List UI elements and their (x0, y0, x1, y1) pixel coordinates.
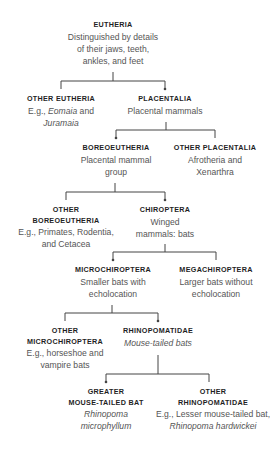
node-title: EUTHERIA (68, 20, 158, 31)
node-description: group (81, 166, 152, 178)
node-description: E.g., Primates, Rodentia, (18, 226, 114, 238)
node-title: PLACENTALIA (128, 94, 203, 105)
node-description: Mouse-tailed bats (123, 337, 193, 349)
node-description: E.g., horseshoe and (27, 347, 104, 359)
node-other-microchiroptera: OTHER MICROCHIROPTERA E.g., horseshoe an… (27, 326, 104, 371)
node-description: Larger bats without (179, 276, 252, 288)
node-description: and Cetacea (18, 238, 114, 250)
node-description: Rhinopoma hardwickei (156, 420, 270, 432)
node-description: Placental mammals (128, 105, 203, 117)
node-description: of their jaws, teeth, (68, 43, 158, 55)
node-other-boreoeutheria: OTHER BOREOEUTHERIA E.g., Primates, Rode… (18, 205, 114, 250)
node-description: echolocation (179, 288, 252, 300)
node-placentalia: PLACENTALIA Placental mammals (128, 94, 203, 117)
node-title: CHIROPTERA (136, 205, 194, 216)
node-description: Xenarthra (174, 166, 256, 178)
node-microchiroptera: MICROCHIROPTERA Smaller bats with echolo… (75, 265, 151, 300)
node-description: ankles, and feet (68, 55, 158, 67)
node-title: BOREOEUTHERIA (81, 143, 152, 154)
node-title: OTHER (27, 326, 104, 337)
node-boreoeutheria: BOREOEUTHERIA Placental mammal group (81, 143, 152, 178)
node-eutheria: EUTHERIA Distinguished by details of the… (68, 20, 158, 67)
node-description: E.g., Eomaia and (27, 105, 95, 117)
node-description: vampire bats (27, 359, 104, 371)
node-title: MOUSE-TAILED BAT (68, 398, 143, 409)
node-megachiroptera: MEGACHIROPTERA Larger bats without echol… (179, 265, 252, 300)
node-description: Smaller bats with (75, 276, 151, 288)
node-rhinopomatidae: RHINOPOMATIDAE Mouse-tailed bats (123, 326, 193, 349)
node-other-eutheria: OTHER EUTHERIA E.g., Eomaia and Juramaia (27, 94, 95, 129)
node-description: Distinguished by details (68, 31, 158, 43)
node-description: echolocation (75, 288, 151, 300)
node-title: MEGACHIROPTERA (179, 265, 252, 276)
node-title: GREATER (68, 387, 143, 398)
node-title: RHINOPOMATIDAE (156, 398, 270, 409)
node-other-rhinopomatidae: OTHER RHINOPOMATIDAE E.g., Lesser mouse-… (156, 387, 270, 432)
node-description: Rhinopoma (68, 408, 143, 420)
node-other-placentalia: OTHER PLACENTALIA Afrotheria and Xenarth… (174, 143, 256, 178)
node-title: OTHER (18, 205, 114, 216)
node-description: Winged (136, 216, 194, 228)
node-title: BOREOEUTHERIA (18, 216, 114, 227)
node-title: OTHER (156, 387, 270, 398)
node-description: microphyllum (68, 420, 143, 432)
node-title: RHINOPOMATIDAE (123, 326, 193, 337)
node-chiroptera: CHIROPTERA Winged mammals: bats (136, 205, 194, 240)
node-title: MICROCHIROPTERA (27, 337, 104, 348)
node-description: mammals: bats (136, 228, 194, 240)
node-description: E.g., Lesser mouse-tailed bat, (156, 408, 270, 420)
node-description: Placental mammal (81, 154, 152, 166)
node-description: Afrotheria and (174, 154, 256, 166)
node-title: OTHER EUTHERIA (27, 94, 95, 105)
node-greater-mouse-tailed-bat: GREATER MOUSE-TAILED BAT Rhinopoma micro… (68, 387, 143, 432)
node-description: Juramaia (27, 117, 95, 129)
node-title: OTHER PLACENTALIA (174, 143, 256, 154)
node-title: MICROCHIROPTERA (75, 265, 151, 276)
